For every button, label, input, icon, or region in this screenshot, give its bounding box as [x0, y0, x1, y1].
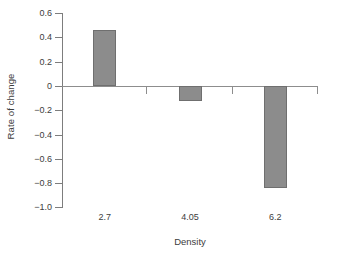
y-tick-mark: [55, 86, 62, 87]
x-tick-mark: [146, 87, 147, 94]
y-tick-mark: [55, 110, 62, 111]
y-tick-label: −0.2: [34, 106, 52, 115]
y-tick-mark: [55, 62, 62, 63]
y-tick-label: −0.4: [34, 131, 52, 140]
x-axis-title: Density: [62, 236, 318, 247]
y-tick-mark: [55, 183, 62, 184]
y-axis-line: [62, 13, 63, 208]
y-tick-mark: [55, 135, 62, 136]
y-tick-label: −0.8: [34, 179, 52, 188]
bar-density-2.7: [93, 30, 116, 86]
y-tick-label: 0.2: [39, 58, 52, 67]
y-tick-mark: [55, 207, 62, 208]
plot-area: 0.6 0.4 0.2 0 −0.2 −0.4 −0.6 −0.8 −1.0 2…: [0, 0, 345, 257]
x-tick-label-1: 4.05: [169, 212, 211, 222]
y-tick-label: 0.4: [39, 33, 52, 42]
y-tick-label: 0: [47, 82, 52, 91]
y-tick-mark: [55, 37, 62, 38]
y-tick-label: −0.6: [34, 155, 52, 164]
x-tick-label-0: 2.7: [84, 212, 126, 222]
y-tick-label: 0.6: [39, 9, 52, 18]
bar-density-6.2: [264, 86, 287, 188]
y-tick-mark: [55, 13, 62, 14]
x-tick-mark: [232, 87, 233, 94]
bar-density-4.05: [179, 86, 202, 101]
y-tick-label: −1.0: [34, 203, 52, 212]
y-tick-mark: [55, 159, 62, 160]
x-tick-mark: [317, 87, 318, 94]
x-tick-label-2: 6.2: [254, 212, 296, 222]
chart-figure: Rate of change 0.6 0.4 0.2 0 −0.2 −0.4 −…: [0, 0, 345, 257]
